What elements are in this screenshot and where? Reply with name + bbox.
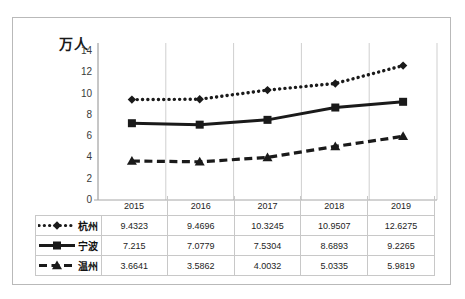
table-cell-value: 7.215	[101, 236, 167, 256]
data-point-marker	[399, 98, 407, 106]
legend-swatch-solid-square	[38, 240, 76, 251]
legend-series-name: 杭州	[78, 218, 98, 233]
x-axis-category-label: 2016	[167, 196, 234, 216]
table-row: 温州3.66413.58624.00325.03355.9819	[36, 256, 435, 276]
legend-series-name: 宁波	[78, 238, 98, 253]
data-point-marker	[128, 119, 136, 127]
table-cell-value: 7.5304	[234, 236, 301, 256]
legend-swatch	[38, 220, 76, 231]
x-axis-category-label: 2017	[234, 196, 301, 216]
table-cell-value: 3.6641	[101, 256, 167, 276]
table-cell-value: 8.6893	[301, 236, 368, 256]
data-point-marker	[128, 95, 136, 103]
legend-swatch-dashed-triangle	[38, 260, 76, 271]
data-table: 20152016201720182019杭州9.43239.469610.324…	[35, 196, 435, 276]
table-row: 杭州9.43239.469610.324510.950712.6275	[36, 216, 435, 236]
series-lines	[127, 61, 408, 165]
table-header-row: 20152016201720182019	[36, 196, 435, 216]
legend-entry: 杭州	[36, 216, 102, 236]
table-cell-value: 9.4323	[101, 216, 167, 236]
table-cell-value: 3.5862	[167, 256, 234, 276]
table-cell-value: 10.3245	[234, 216, 301, 236]
x-axis-category-label: 2015	[101, 196, 167, 216]
legend-swatch	[38, 260, 76, 271]
table-cell-value: 9.2265	[368, 236, 435, 256]
data-point-marker	[264, 116, 272, 124]
data-point-marker	[196, 121, 204, 129]
legend-swatch	[38, 240, 76, 251]
legend-swatch-dotted-diamond	[38, 220, 76, 231]
table-cell-value: 5.9819	[368, 256, 435, 276]
table-cell-value: 5.0335	[301, 256, 368, 276]
table-cell-value: 4.0032	[234, 256, 301, 276]
series-line	[132, 66, 403, 100]
table-cell-value: 10.9507	[301, 216, 368, 236]
table-cell-value: 9.4696	[167, 216, 234, 236]
data-point-marker	[53, 242, 61, 250]
chart-frame: 万人 02468101214 20152016201720182019杭州9.4…	[12, 17, 451, 285]
data-point-marker	[331, 79, 339, 87]
table-cell-value: 7.0779	[167, 236, 234, 256]
x-axis-category-label: 2019	[368, 196, 435, 216]
legend-entry: 宁波	[36, 236, 102, 256]
data-point-marker	[331, 104, 339, 112]
table-cell-value: 12.6275	[368, 216, 435, 236]
data-point-marker	[196, 95, 204, 103]
x-axis-category-label: 2018	[301, 196, 368, 216]
legend-series-name: 温州	[78, 258, 98, 273]
table-corner-cell	[36, 196, 102, 216]
data-point-marker	[399, 61, 407, 69]
legend-entry: 温州	[36, 256, 102, 276]
data-point-marker	[263, 86, 271, 94]
data-point-marker	[53, 221, 61, 229]
table-row: 宁波7.2157.07797.53048.68939.2265	[36, 236, 435, 256]
